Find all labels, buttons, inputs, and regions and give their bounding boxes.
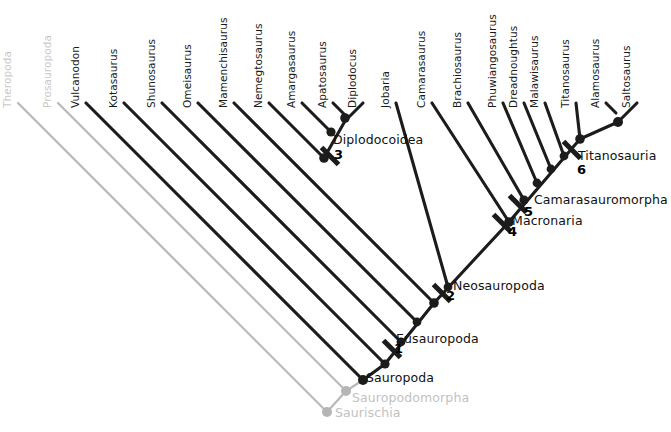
tree-branch [396,103,448,287]
tip-label-titanosaurus: Titanosaurus [559,39,571,108]
tree-node [319,153,329,163]
tip-label-alamosaurus: Alamosaurus [589,39,601,108]
tree-branch [333,103,345,115]
tree-branch [545,103,564,156]
tip-label-diplodocus: Diplodocus [346,49,358,108]
node-number-3: 3 [334,147,343,162]
tree-node [322,407,332,417]
tree-node [533,179,542,188]
tip-label-apatosaurus: Apatosaurus [316,41,328,108]
tree-branch [432,103,509,222]
tip-label-amargasaurus: Amargasaurus [285,31,297,108]
tree-node [575,134,585,144]
tip-label-phuwiangosaurus: Phuwiangosaurus [486,14,498,108]
node-number-5: 5 [524,204,533,219]
tree-node [413,318,422,327]
clade-label-macronaria: Macronaria [512,213,583,228]
tip-label-prosauropoda: Prosauropoda [41,35,53,108]
tree-node [380,359,389,368]
tree-node [613,117,623,127]
tree-branch [86,103,363,380]
tip-label-mamenchisaurus: Mamenchisaurus [217,17,229,108]
clade-label-camarasauromorpha: Camarasauromorpha [534,192,668,207]
tree-node [340,113,350,123]
node-number-6: 6 [577,162,586,177]
tip-label-theropoda: Theropoda [1,51,13,108]
tip-label-brachiosaurus: Brachiosaurus [451,32,463,108]
branch-layer [18,103,637,412]
clade-label-eusauropoda: Eusauropoda [396,331,479,346]
cladogram-figure: TheropodaProsauropodaVulcanodonKotasauru… [0,0,671,432]
tree-branch [269,103,324,158]
node-number-2: 2 [446,288,455,303]
node-number-1: 1 [394,341,403,356]
tree-branch [58,103,346,391]
tip-label-kotasaurus: Kotasaurus [107,49,119,108]
clade-label-saurischia: Saurischia [335,405,401,420]
clade-label-neosauropoda: Neosauropoda [453,278,545,293]
clade-label-diplodocoidea: Diplodocoidea [333,132,423,147]
tip-label-dreadnoughtus: Dreadnoughtus [507,26,519,108]
tip-label-vulcanodon: Vulcanodon [69,46,81,108]
tree-node [429,298,439,308]
tip-label-omeisaurus: Omeisaurus [181,44,193,108]
tree-branch [606,103,616,113]
tree-branch [468,103,524,200]
tick-mark-layer [322,142,581,358]
tip-label-malawisaurus: Malawisaurus [528,35,540,108]
tip-label-saltosaurus: Saltosaurus [620,45,632,108]
tree-node [547,165,556,174]
clade-label-sauropodomorpha: Sauropodomorpha [352,390,469,405]
tip-label-jobaria: Jobaria [379,71,391,108]
tip-label-nemegtosaurus: Nemegtosaurus [252,23,264,108]
tip-label-shunosaurus: Shunosaurus [145,39,157,108]
node-number-4: 4 [508,224,517,239]
clade-label-sauropoda: Sauropoda [366,370,434,385]
tip-label-camarasaurus: Camarasaurus [415,31,427,108]
tree-branch [580,122,618,139]
tree-node [341,386,351,396]
tree-node [560,152,569,161]
tree-branch [576,103,580,139]
clade-label-titanosauria: Titanosauria [578,148,656,163]
